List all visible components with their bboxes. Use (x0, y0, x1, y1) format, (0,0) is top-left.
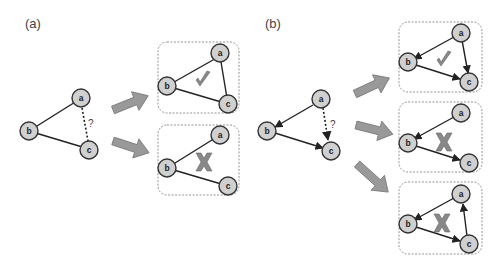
node-a: a (312, 90, 330, 108)
node-c: c (460, 235, 478, 253)
svg-text:a: a (319, 94, 324, 104)
svg-text:b: b (405, 57, 410, 67)
node-b: b (258, 122, 276, 140)
node-a: a (72, 89, 90, 107)
svg-text:a: a (79, 93, 84, 103)
svg-text:a: a (459, 28, 464, 38)
check-icon (196, 71, 210, 86)
svg-text:c: c (467, 77, 472, 87)
edge-a-to-b (275, 105, 313, 127)
flow-arrow-down (110, 131, 152, 162)
node-c: c (219, 177, 237, 195)
question-mark: ? (88, 118, 94, 129)
svg-text:b: b (264, 126, 269, 136)
node-c: c (460, 73, 478, 91)
edge-b-to-c (275, 133, 323, 148)
svg-text:b: b (164, 81, 169, 91)
panel-b-query-graph: ? a b c (258, 90, 340, 160)
node-c: c (219, 95, 237, 113)
svg-text:a: a (218, 130, 223, 140)
outcome-b1-valid: a b c (399, 22, 482, 92)
node-c: c (80, 141, 98, 159)
check-icon (437, 51, 451, 66)
node-a: a (452, 104, 470, 122)
svg-text:c: c (467, 158, 472, 168)
svg-text:a: a (218, 48, 223, 58)
flow-arrow-up (109, 86, 152, 119)
outcome-b2-invalid: a b c (399, 102, 482, 172)
svg-text:b: b (405, 138, 410, 148)
svg-text:b: b (26, 126, 31, 136)
svg-text:c: c (87, 145, 92, 155)
node-a: a (211, 126, 229, 144)
node-b: b (20, 122, 38, 140)
outcome-a2-invalid: a b c (158, 125, 239, 195)
node-a: a (211, 44, 229, 62)
svg-text:b: b (405, 219, 410, 229)
cross-icon (436, 133, 452, 151)
svg-text:c: c (467, 239, 472, 249)
svg-text:c: c (226, 181, 231, 191)
node-b: b (399, 53, 417, 71)
panel-a-label: (a) (25, 16, 41, 31)
outcome-a1-valid: a b c (158, 42, 239, 113)
cross-icon (196, 153, 212, 171)
outcome-b3-invalid: a b c (399, 182, 482, 254)
panel-a-query-graph: ? a b c (20, 89, 98, 159)
node-b: b (158, 77, 176, 95)
svg-text:c: c (329, 146, 334, 156)
flow-arrow-down (350, 157, 395, 200)
node-c: c (322, 142, 340, 160)
node-a: a (452, 185, 470, 203)
svg-text:a: a (459, 108, 464, 118)
query-edge-a-to-c (323, 108, 328, 140)
panel-b-label: (b) (265, 16, 281, 31)
svg-text:c: c (226, 99, 231, 109)
flow-arrow-right (354, 115, 396, 144)
node-a: a (452, 24, 470, 42)
svg-text:a: a (459, 189, 464, 199)
svg-text:b: b (164, 163, 169, 173)
node-c: c (460, 154, 478, 172)
flow-arrow-up (351, 69, 394, 103)
node-b: b (399, 215, 417, 233)
cross-icon (434, 214, 450, 232)
diagram-canvas: (a) ? a b c a b c a b c (b) (0, 0, 500, 269)
node-b: b (158, 159, 176, 177)
node-b: b (399, 134, 417, 152)
question-mark: ? (330, 119, 336, 130)
